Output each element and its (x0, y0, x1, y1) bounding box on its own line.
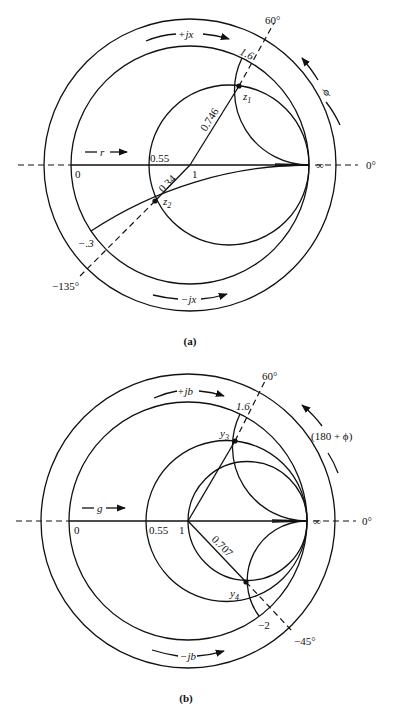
arrow-plus-jb-tail (154, 391, 177, 398)
label-minus45-deg: −45° (294, 635, 316, 647)
label-y4: y4 (229, 587, 239, 602)
arrow-plus-jx-tail (146, 34, 176, 41)
label-180-plus-phi: (180 + ϕ) (311, 430, 353, 443)
label-sixty-deg: 60° (265, 14, 280, 26)
label-sixty-deg: 60° (262, 370, 277, 382)
label-r-055: 0.55 (150, 152, 170, 164)
arrow-plus-jb-head (199, 391, 224, 396)
diagram-a: +jx −jx r 0 0.55 1 ∞ 0° 60° −135° ϕ 1.6 … (18, 14, 376, 348)
label-plus-jb: +jb (177, 385, 193, 397)
label-zero: 0 (74, 524, 80, 536)
point-z2 (152, 198, 157, 203)
label-minus135-deg: −135° (52, 280, 79, 292)
label-minus-jx: −jx (181, 293, 196, 305)
label-z1: z1 (242, 90, 251, 105)
label-b-1.6: 1.6 (236, 400, 250, 412)
arrow-plus-jx-head (203, 34, 229, 39)
label-b-minus-2: −2 (258, 619, 270, 631)
point-z1 (236, 83, 241, 88)
reactance-arc-minus-0.3 (91, 165, 309, 231)
label-infinity: ∞ (316, 159, 324, 171)
line-to-y3 (188, 441, 235, 521)
arrow-minus-jx-head (201, 294, 227, 299)
label-y3: y3 (219, 427, 229, 442)
label-zero-deg: 0° (362, 515, 372, 527)
diagram-b: +jb −jb g 0 0.55 1 ∞ 0° 60° −45° (180 + … (16, 370, 372, 705)
arrow-phi-tail (328, 453, 338, 473)
label-one: 1 (192, 168, 198, 180)
point-y3 (232, 438, 237, 443)
caption-a: (a) (184, 335, 197, 348)
arrow-minus-jb-tail (152, 650, 178, 656)
label-plus-jx: +jx (178, 28, 193, 40)
label-phi: ϕ (318, 86, 331, 97)
caption-b: (b) (179, 692, 193, 705)
arrow-minus-jb-head (197, 651, 224, 656)
point-y4 (243, 579, 248, 584)
smith-chart-figure: +jx −jx r 0 0.55 1 ∞ 0° 60° −135° ϕ 1.6 … (0, 0, 394, 720)
susceptance-arc-1.6 (232, 414, 307, 521)
label-distance-0707: 0.707 (210, 533, 236, 559)
label-one: 1 (179, 524, 185, 536)
label-r: r (100, 146, 105, 158)
label-x-minus-0.3: −.3 (78, 237, 94, 249)
label-minus-jb: −jb (180, 650, 196, 662)
arrow-phi-tail (326, 102, 340, 125)
label-g: g (97, 502, 103, 514)
susceptance-arc-minus-2 (247, 521, 307, 616)
label-zero-deg: 0° (366, 159, 376, 171)
label-distance-034: 0.34 (156, 172, 178, 194)
label-infinity: ∞ (313, 515, 321, 527)
arrow-minus-jx-tail (153, 295, 178, 299)
label-g-055: 0.55 (149, 524, 169, 536)
label-z2: z2 (162, 195, 171, 210)
label-zero: 0 (75, 168, 81, 180)
label-distance-0746: 0.746 (198, 105, 222, 133)
arrow-phi-head (302, 58, 318, 80)
arrow-phi-head (302, 405, 322, 426)
